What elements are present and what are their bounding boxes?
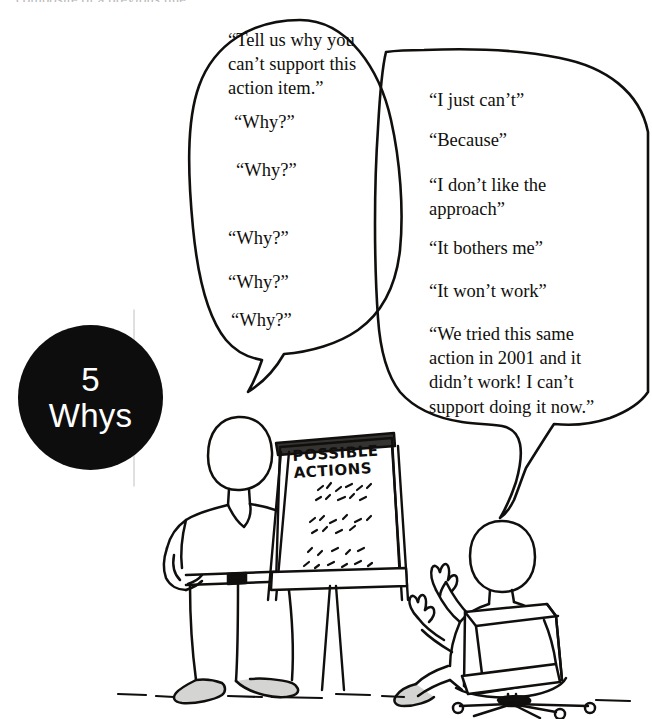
why-prompt-2: “Why?” <box>236 160 297 181</box>
objector-answer-6: “We tried this same action in 2001 and i… <box>429 322 605 419</box>
why-prompt-5: “Why?” <box>231 310 292 331</box>
objector-answer-1: “I just can’t” <box>429 88 629 112</box>
objector-answer-2: “Because” <box>429 128 629 152</box>
facilitator-opening-question: “Tell us why you can’t support this acti… <box>228 28 380 101</box>
badge-word: Whys <box>49 399 132 432</box>
why-prompt-3: “Why?” <box>228 228 289 249</box>
why-prompt-1: “Why?” <box>234 112 295 133</box>
five-whys-badge: 5 Whys <box>18 325 163 470</box>
flipchart-heading: POSSIBLE ACTIONS <box>292 441 404 481</box>
why-prompt-4: “Why?” <box>228 272 289 293</box>
top-cut-text: composite of a previous line <box>16 0 276 2</box>
objector-answer-4: “It bothers me” <box>429 236 629 260</box>
badge-number: 5 <box>81 363 100 396</box>
cartoon-canvas: composite of a previous line “Tell us wh… <box>0 0 652 719</box>
seated-objector-figure <box>394 521 595 719</box>
objector-answer-5: “It won’t work” <box>429 279 629 303</box>
objector-answer-3: “I don’t like the approach” <box>429 173 581 221</box>
